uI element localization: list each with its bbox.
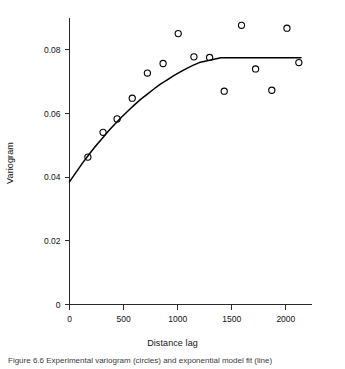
x-tick-label: 2000 [276, 314, 295, 324]
x-tick-label: 1000 [168, 314, 187, 324]
y-tick-label: 0.06 [44, 109, 61, 119]
y-tick-label: 0 [56, 300, 61, 310]
data-point-marker [100, 129, 106, 135]
data-point-marker [284, 25, 290, 31]
variogram-plot: 0500100015002000 00.020.040.060.08 [0, 0, 345, 369]
figure-caption: Figure 6.6 Experimental variogram (circl… [8, 356, 338, 369]
x-tick-label: 500 [116, 314, 130, 324]
x-axis-ticks: 0500100015002000 [67, 305, 295, 324]
figure-container: 0500100015002000 00.020.040.060.08 Vario… [0, 0, 345, 369]
data-points-group [85, 22, 302, 160]
data-point-marker [191, 54, 197, 60]
data-point-marker [296, 59, 302, 65]
y-tick-label: 0.02 [44, 236, 61, 246]
data-point-marker [269, 87, 275, 93]
data-point-marker [160, 60, 166, 66]
data-point-marker [144, 70, 150, 76]
y-tick-label: 0.08 [44, 45, 61, 55]
x-tick-label: 0 [67, 314, 72, 324]
data-point-marker [221, 88, 227, 94]
x-tick-label: 1500 [222, 314, 241, 324]
data-point-marker [252, 66, 258, 72]
data-point-marker [238, 22, 244, 28]
x-axis-title: Distance lag [0, 338, 345, 348]
model-curve-line [70, 58, 302, 182]
y-tick-label: 0.04 [44, 172, 61, 182]
data-point-marker [175, 30, 181, 36]
y-axis-title: Variogram [5, 131, 15, 195]
y-axis-ticks: 00.020.040.060.08 [44, 45, 70, 310]
axes-group [70, 18, 313, 305]
data-point-marker [129, 95, 135, 101]
